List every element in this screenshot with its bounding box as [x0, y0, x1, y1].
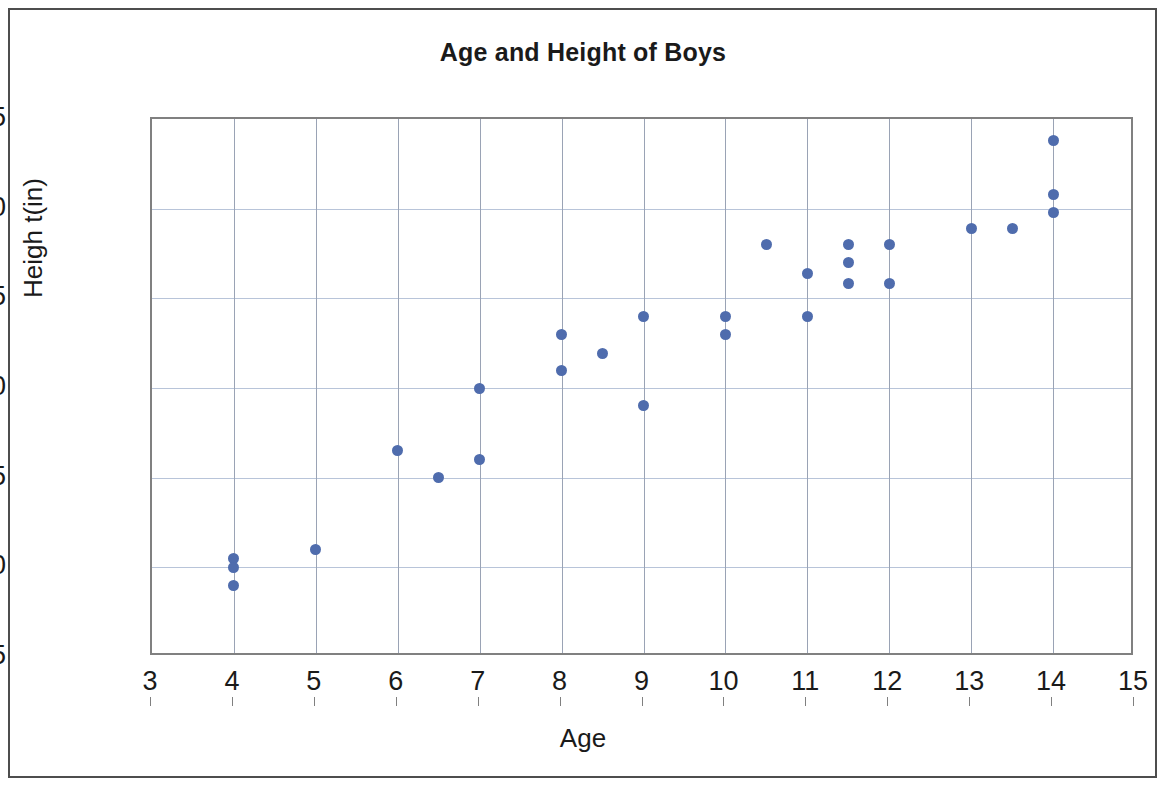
x-axis-tick-mark	[396, 697, 397, 706]
x-axis-tick-label: 9	[602, 666, 682, 697]
x-axis-tick-mark	[969, 697, 970, 706]
x-axis-tick-label: 4	[192, 666, 272, 697]
x-axis-tick-label: 15	[1093, 666, 1166, 697]
x-axis-tick-label: 11	[765, 666, 845, 697]
x-axis-tick-mark	[478, 697, 479, 706]
x-axis-tick-mark	[805, 697, 806, 706]
x-axis-ticks: 3456789101112131415	[0, 0, 1166, 786]
x-axis-tick-label: 7	[438, 666, 518, 697]
x-axis-tick-mark	[150, 697, 151, 706]
x-axis-tick-label: 8	[520, 666, 600, 697]
x-axis-tick-label: 14	[1011, 666, 1091, 697]
x-axis-tick-mark	[887, 697, 888, 706]
x-axis-tick-label: 13	[929, 666, 1009, 697]
x-axis-tick-label: 5	[274, 666, 354, 697]
x-axis-tick-label: 10	[683, 666, 763, 697]
x-axis-tick-mark	[314, 697, 315, 706]
x-axis-tick-mark	[723, 697, 724, 706]
x-axis-tick-label: 3	[110, 666, 190, 697]
x-axis-tick-mark	[560, 697, 561, 706]
x-axis-tick-mark	[642, 697, 643, 706]
x-axis-tick-mark	[232, 697, 233, 706]
x-axis-tick-mark	[1133, 697, 1134, 706]
y-axis-title: Heigh t(in)	[18, 178, 49, 298]
x-axis-tick-mark	[1051, 697, 1052, 706]
x-axis-tick-label: 12	[847, 666, 927, 697]
x-axis-title: Age	[0, 723, 1166, 754]
x-axis-tick-label: 6	[356, 666, 436, 697]
